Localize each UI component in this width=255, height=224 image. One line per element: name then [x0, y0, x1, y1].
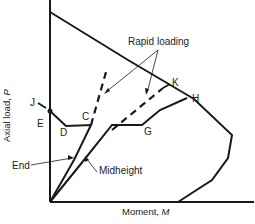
point-h-label: H: [192, 93, 199, 104]
point-e-label: E: [37, 118, 44, 129]
point-k-label: K: [172, 77, 179, 88]
rapid-loading-label: Rapid loading: [128, 36, 189, 47]
point-e-dot: [48, 109, 53, 114]
arrow-head-icon: [104, 88, 110, 94]
point-g-label: G: [144, 126, 152, 137]
point-c-label: C: [82, 111, 89, 122]
point-j-label: J: [30, 97, 35, 108]
arrow-head-icon: [68, 155, 74, 160]
column-interaction-diagram: Rapid loading K H J E D C G End Midheigh…: [0, 0, 255, 224]
arrow-head-icon: [145, 88, 149, 95]
k-connector: [163, 84, 170, 88]
y-axis-label: Axial load, P: [1, 89, 12, 142]
rapid-leader-1: [106, 50, 158, 92]
midheight-load-path: [50, 98, 187, 202]
end-leader: [31, 158, 72, 165]
midheight-label: Midheight: [99, 165, 143, 176]
point-d-label: D: [60, 127, 67, 138]
rapid-loading-end-dashed: [91, 72, 106, 125]
end-label: End: [12, 160, 30, 171]
j-dashed-line: [38, 103, 46, 108]
x-axis-label: Moment, M: [122, 206, 170, 217]
rapid-loading-midheight-dashed: [112, 88, 163, 130]
